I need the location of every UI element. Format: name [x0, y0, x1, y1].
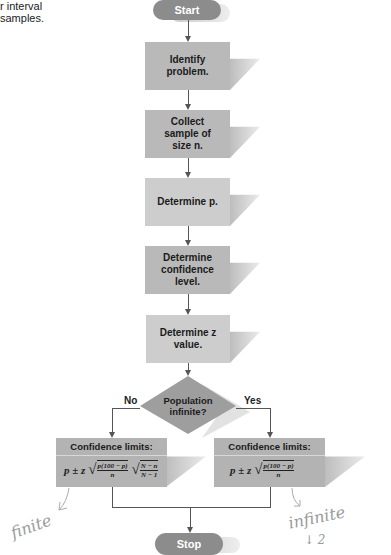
result-title: Confidence limits: — [214, 441, 325, 456]
caption-line-2: samples. — [0, 12, 44, 24]
connector — [112, 487, 113, 507]
connector — [188, 294, 189, 309]
step-text: Identify — [170, 54, 206, 66]
connector — [270, 487, 271, 507]
box-shadow — [325, 440, 365, 487]
formula-infinite: p ± z √ p(100 − p) n — [230, 460, 325, 479]
stop-label: Stop — [177, 538, 201, 550]
step-determine-confidence-level: Determine confidence level. — [145, 246, 230, 294]
radical-icon: √ — [131, 461, 139, 478]
branch-yes-label: Yes — [244, 395, 261, 406]
fraction-denominator: n — [277, 471, 281, 479]
connector — [270, 408, 271, 432]
connector — [112, 408, 140, 409]
radical-icon: √ — [254, 461, 262, 478]
step-identify-problem: Identify problem. — [145, 42, 230, 90]
step-text: Determine p. — [157, 196, 218, 208]
step-text: Determine z — [160, 327, 217, 339]
result-title: Confidence limits: — [56, 441, 167, 456]
confidence-limits-infinite: Confidence limits: p ± z √ p(100 − p) n — [214, 438, 325, 487]
branch-no-label: No — [124, 395, 137, 406]
formula-finite: p ± z √ p(100 − p) n √ N − n N − 1 — [64, 460, 167, 479]
sqrt-term: √ N − n N − 1 — [131, 460, 158, 479]
start-label: Start — [174, 4, 199, 16]
box-shadow — [166, 440, 206, 487]
fraction-numerator: p(100 − p) — [97, 462, 129, 471]
caption-line-1: r interval — [0, 0, 44, 12]
step-text: problem. — [166, 66, 208, 78]
handwritten-note: ↓ 2 — [304, 533, 326, 547]
handwritten-finite: finite — [8, 510, 54, 542]
box-shadow — [230, 315, 260, 363]
connector — [188, 90, 189, 104]
fraction-numerator: p(100 − p) — [263, 462, 295, 471]
box-shadow — [230, 246, 260, 294]
fraction-denominator: N − 1 — [141, 471, 157, 479]
step-text: level. — [175, 276, 200, 288]
start-terminal: Start — [153, 0, 221, 20]
formula-prefix: p ± z — [64, 464, 85, 476]
fraction: p(100 − p) n — [97, 460, 129, 479]
step-determine-z: Determine z value. — [146, 315, 230, 363]
step-text: Determine — [163, 252, 212, 264]
step-text: value. — [174, 339, 202, 351]
connector — [188, 20, 189, 36]
connector — [112, 507, 271, 508]
box-shadow — [230, 42, 260, 90]
connector — [112, 408, 113, 432]
box-shadow — [230, 110, 260, 158]
box-shadow — [230, 178, 260, 226]
step-collect-sample: Collect sample of size n. — [145, 110, 230, 158]
step-text: Collect — [171, 116, 204, 128]
figure-caption: r interval samples. — [0, 0, 44, 24]
sqrt-term: √ p(100 − p) n — [254, 460, 294, 479]
connector — [188, 226, 189, 240]
decision-text: Population infinite? — [158, 393, 218, 419]
fraction-denominator: n — [111, 471, 115, 479]
confidence-limits-finite: Confidence limits: p ± z √ p(100 − p) n … — [56, 438, 167, 487]
step-determine-p: Determine p. — [145, 178, 230, 226]
step-text: sample of — [164, 128, 211, 140]
handwritten-arrow-icon — [288, 488, 308, 512]
decision-line: Population — [163, 395, 212, 406]
stop-terminal: Stop — [155, 533, 223, 555]
connector — [188, 158, 189, 172]
decision-line: infinite? — [170, 406, 207, 417]
fraction: p(100 − p) n — [263, 460, 295, 479]
fraction: N − n N − 1 — [140, 460, 159, 479]
radical-icon: √ — [88, 461, 96, 478]
handwritten-arrow-icon — [55, 488, 75, 516]
connector — [190, 507, 191, 527]
step-text: confidence — [161, 264, 214, 276]
sqrt-term: √ p(100 − p) n — [88, 460, 128, 479]
step-text: size n. — [172, 140, 203, 152]
formula-prefix: p ± z — [230, 464, 251, 476]
fraction-numerator: N − n — [140, 462, 159, 471]
connector — [236, 408, 271, 409]
